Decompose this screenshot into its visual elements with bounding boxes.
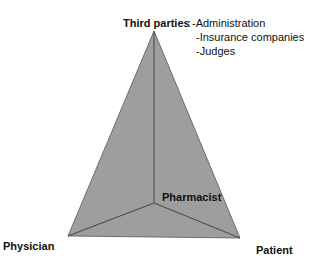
label-pharmacist: Pharmacist — [162, 191, 221, 203]
third-party-item: -Insurance companies — [196, 31, 304, 43]
label-physician: Physician — [3, 240, 54, 252]
label-third-parties: Third parties — [123, 17, 190, 29]
third-parties-separator: : — [188, 17, 191, 29]
third-party-item: -Administration — [192, 17, 265, 29]
third-party-item: -Judges — [196, 45, 235, 57]
label-patient: Patient — [256, 244, 293, 256]
